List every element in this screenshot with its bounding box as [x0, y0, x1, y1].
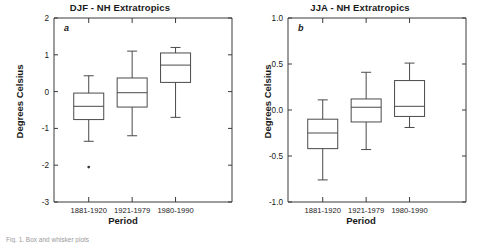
- panel-letter: a: [64, 23, 69, 33]
- box-iqr: [395, 81, 425, 117]
- box-plot-group: [308, 100, 338, 180]
- box-plot-group: [351, 72, 381, 149]
- box-plot-group: [74, 76, 104, 169]
- y-tick-label: 2: [44, 14, 49, 23]
- x-tick-label: 1881-1920: [71, 206, 107, 215]
- y-tick-label: 1.0: [272, 14, 284, 23]
- panel-letter: b: [298, 23, 304, 33]
- box-plot-group: [117, 51, 147, 136]
- box-plot-group: [161, 47, 191, 117]
- outlier-point: [87, 166, 90, 169]
- figure-caption: Fig. 1. Box and whisker plots: [6, 236, 476, 243]
- plot-frame: [54, 18, 232, 202]
- y-tick-label: 0.5: [272, 60, 284, 69]
- y-tick-label: -2: [42, 161, 50, 170]
- y-tick-label: 0.0: [272, 106, 284, 115]
- box-iqr: [308, 119, 338, 148]
- panel-b-plot: 1.00.50.0-0.5-1.0b1881-19201921-19791980…: [240, 0, 480, 232]
- panel-b: JJA - NH Extratropics Degrees Celsius Pe…: [240, 0, 480, 232]
- x-tick-label: 1881-1920: [305, 206, 341, 215]
- panel-a: DJF - NH Extratropics Degrees Celsius Pe…: [0, 0, 240, 232]
- y-tick-label: -0.5: [269, 152, 284, 161]
- x-tick-label: 1921-1979: [114, 206, 150, 215]
- box-iqr: [351, 99, 381, 122]
- x-tick-label: 1980-1990: [391, 206, 427, 215]
- figure-container: DJF - NH Extratropics Degrees Celsius Pe…: [0, 0, 481, 244]
- box-iqr: [161, 53, 191, 82]
- panel-a-plot: 210-1-2-3a1881-19201921-19791980-1990: [0, 0, 240, 232]
- y-tick-label: -1: [42, 124, 50, 133]
- y-tick-label: 0: [44, 88, 49, 97]
- y-tick-label: -1.0: [269, 198, 284, 207]
- plot-frame: [288, 18, 466, 202]
- box-plot-group: [395, 63, 425, 127]
- y-tick-label: 1: [44, 51, 49, 60]
- x-tick-label: 1921-1979: [348, 206, 384, 215]
- x-tick-label: 1980-1990: [157, 206, 193, 215]
- y-tick-label: -3: [42, 198, 50, 207]
